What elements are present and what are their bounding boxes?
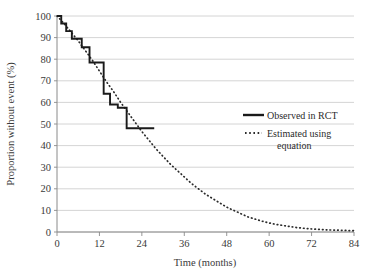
x-axis-title: Time (months) xyxy=(174,257,237,269)
y-tick-label-0: 0 xyxy=(46,227,51,238)
y-axis-title: Proportion without event (%) xyxy=(5,62,17,186)
x-tick-label-36: 36 xyxy=(179,238,190,249)
y-tick-label-80: 80 xyxy=(41,54,52,65)
legend-label-observed: Observed in RCT xyxy=(267,110,338,121)
y-tick-label-40: 40 xyxy=(41,140,52,151)
x-tick-label-60: 60 xyxy=(264,238,275,249)
x-tick-label-72: 72 xyxy=(306,238,317,249)
y-tick-label-70: 70 xyxy=(41,75,52,86)
y-tick-label-100: 100 xyxy=(35,11,51,22)
survival-curve-chart: 0102030405060708090100 012243648607284 T… xyxy=(0,0,366,277)
x-tick-label-0: 0 xyxy=(54,238,59,249)
x-tick-label-48: 48 xyxy=(221,238,232,249)
chart-background xyxy=(0,0,366,277)
y-tick-label-50: 50 xyxy=(41,119,52,130)
y-tick-label-90: 90 xyxy=(41,32,52,43)
y-tick-label-60: 60 xyxy=(41,97,52,108)
x-tick-label-24: 24 xyxy=(137,238,148,249)
legend-label-estimated-line2: equation xyxy=(277,140,311,151)
y-tick-label-10: 10 xyxy=(41,205,52,216)
x-tick-label-12: 12 xyxy=(94,238,105,249)
chart-figure: 0102030405060708090100 012243648607284 T… xyxy=(0,0,366,277)
legend-label-estimated-line1: Estimated using xyxy=(267,128,331,139)
y-tick-label-20: 20 xyxy=(41,183,52,194)
y-tick-label-30: 30 xyxy=(41,162,52,173)
x-tick-label-84: 84 xyxy=(349,238,360,249)
